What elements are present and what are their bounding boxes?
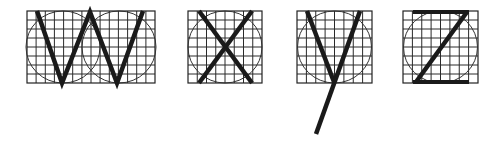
letter-y-construction xyxy=(297,11,372,134)
letter-z-construction xyxy=(403,10,478,84)
letter-z-bottom-bar xyxy=(413,80,469,84)
letter-x-construction xyxy=(188,11,262,83)
letter-w-grid xyxy=(27,11,155,83)
letter-construction-diagram xyxy=(0,0,502,144)
letter-w-construction xyxy=(26,11,156,83)
letter-z-top-bar xyxy=(413,10,469,14)
